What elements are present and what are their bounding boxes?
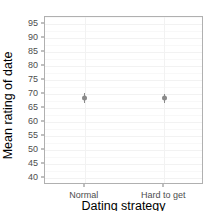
data-point-range <box>160 17 169 184</box>
y-tick-label: 40 <box>28 172 38 182</box>
grid-line-minor <box>45 101 202 102</box>
grid-line-minor <box>45 115 202 116</box>
y-tick-label: 45 <box>28 158 38 168</box>
grid-line-major <box>45 178 202 179</box>
grid-line-major <box>45 108 202 109</box>
y-tick-mark <box>41 149 44 150</box>
data-point-marker <box>162 96 167 101</box>
y-axis-title: Mean rating of date <box>0 0 16 211</box>
grid-line-minor <box>45 31 202 32</box>
grid-line-major <box>45 80 202 81</box>
chart-figure: Mean rating of date 40455055606570758085… <box>0 0 216 211</box>
y-tick-mark <box>41 121 44 122</box>
y-tick-mark <box>41 177 44 178</box>
y-tick-mark <box>41 93 44 94</box>
x-tick-mark <box>163 184 164 187</box>
x-axis-title: Dating strategy <box>44 199 203 211</box>
grid-line-major <box>45 94 202 95</box>
grid-line-minor <box>45 143 202 144</box>
y-tick-mark <box>41 65 44 66</box>
grid-line-minor <box>45 59 202 60</box>
grid-line-minor <box>45 17 202 18</box>
y-tick-label: 65 <box>28 102 38 112</box>
data-point-marker <box>82 96 87 101</box>
grid-line-major <box>45 122 202 123</box>
y-tick-label: 80 <box>28 60 38 70</box>
x-tick-mark <box>83 184 84 187</box>
y-tick-mark <box>41 79 44 80</box>
y-tick-label: 75 <box>28 74 38 84</box>
grid-line-minor <box>45 45 202 46</box>
grid-line-minor <box>45 171 202 172</box>
grid-line-major <box>45 164 202 165</box>
data-point-range <box>80 17 89 184</box>
y-tick-label: 50 <box>28 144 38 154</box>
grid-line-major <box>45 24 202 25</box>
grid-line-major <box>45 150 202 151</box>
grid-line-minor <box>45 157 202 158</box>
grid-line-minor <box>45 87 202 88</box>
y-tick-label: 60 <box>28 116 38 126</box>
y-tick-mark <box>41 23 44 24</box>
grid-line-minor <box>45 129 202 130</box>
y-tick-mark <box>41 135 44 136</box>
y-tick-mark <box>41 163 44 164</box>
grid-line-major <box>45 38 202 39</box>
y-tick-mark <box>41 107 44 108</box>
grid-line-major <box>45 66 202 67</box>
y-tick-label: 85 <box>28 46 38 56</box>
y-tick-label: 90 <box>28 32 38 42</box>
plot-panel <box>44 16 203 184</box>
y-tick-label: 55 <box>28 130 38 140</box>
grid-line-major <box>45 136 202 137</box>
y-tick-label: 70 <box>28 88 38 98</box>
y-tick-label: 95 <box>28 18 38 28</box>
grid-line-minor <box>45 73 202 74</box>
y-tick-mark <box>41 37 44 38</box>
grid-line-major <box>45 52 202 53</box>
y-tick-mark <box>41 51 44 52</box>
